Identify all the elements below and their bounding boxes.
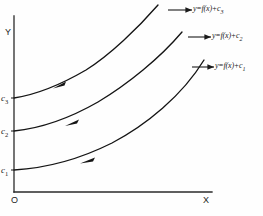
figure-canvas: Y X O c3 c2 c1 y=f(x)+c3 y=f(x)+c2 y=f(x…	[0, 0, 263, 216]
curve-1	[14, 60, 204, 170]
curve-1-label-text: y=f(x)+c	[215, 61, 242, 70]
y-axis-label: Y	[5, 28, 11, 37]
origin-label: O	[11, 196, 18, 205]
curve-2	[14, 32, 182, 131]
curve-3-label: y=f(x)+c3	[193, 5, 223, 15]
curve-1-label-sub: 1	[242, 66, 245, 72]
curve-1-direction-arrow	[80, 158, 95, 164]
tick-label-c3-sub: 3	[5, 98, 8, 105]
curve-2-label-sub: 2	[239, 36, 242, 42]
tick-label-c2-sub: 2	[5, 131, 8, 138]
curve-3-label-sub: 3	[220, 9, 223, 15]
tick-label-c2: c2	[1, 127, 8, 138]
curve-1-label: y=f(x)+c1	[215, 62, 245, 72]
curve-3-direction-arrow	[53, 82, 66, 89]
curve-3	[14, 5, 158, 98]
curve-2-label: y=f(x)+c2	[212, 32, 242, 42]
curve-2-label-text: y=f(x)+c	[212, 31, 239, 40]
curve-3-label-text: y=f(x)+c	[193, 4, 220, 13]
tick-label-c1: c1	[1, 166, 8, 177]
tick-label-c1-sub: 1	[5, 170, 8, 177]
tick-label-c3: c3	[1, 94, 8, 105]
curve-2-direction-arrow	[65, 120, 79, 127]
x-axis-label: X	[203, 196, 209, 205]
